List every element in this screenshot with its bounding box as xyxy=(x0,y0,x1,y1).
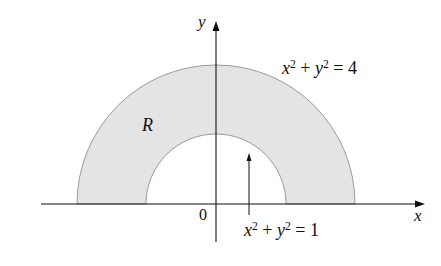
y-axis-arrow-icon xyxy=(213,21,220,31)
inner-circle-equation: x2 + y2 = 1 xyxy=(244,220,319,241)
polar-region-diagram: y x 0 R x2 + y2 = 4 x2 + y2 = 1 xyxy=(0,0,441,266)
origin-label: 0 xyxy=(199,206,207,224)
diagram-canvas xyxy=(0,0,441,266)
outer-circle-equation: x2 + y2 = 4 xyxy=(282,58,357,79)
pointer-arrow-icon xyxy=(247,153,252,161)
region-label: R xyxy=(142,115,153,136)
y-axis-label: y xyxy=(198,12,206,32)
x-axis-label: x xyxy=(414,206,422,226)
